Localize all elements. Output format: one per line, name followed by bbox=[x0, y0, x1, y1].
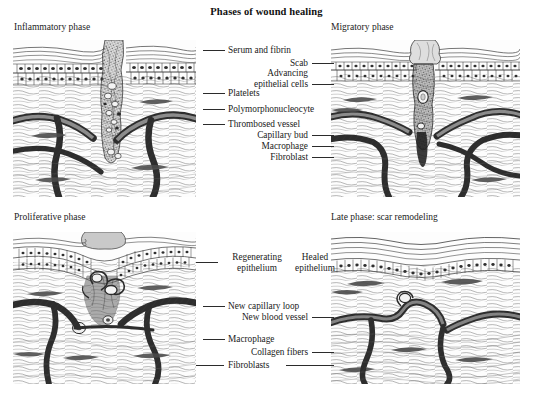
leader-macrophage-top bbox=[312, 146, 334, 147]
figure-title: Phases of wound healing bbox=[0, 6, 533, 17]
label-healed-line2: epithelium bbox=[295, 263, 335, 273]
panel-title-proliferative: Proliferative phase bbox=[14, 212, 86, 222]
panel-title-inflammatory: Inflammatory phase bbox=[14, 22, 90, 32]
label-capillary-bud: Capillary bud bbox=[228, 130, 308, 141]
label-macrophage-bottom: Macrophage bbox=[228, 334, 274, 345]
illustration-late-phase bbox=[331, 232, 520, 384]
migratory-artwork bbox=[331, 40, 520, 197]
label-platelets: Platelets bbox=[228, 88, 260, 99]
wound-healing-figure: Phases of wound healing Inflammatory pha… bbox=[0, 0, 533, 398]
label-new-capillary-loop: New capillary loop bbox=[228, 301, 299, 312]
label-advancing-line2: epithelial cells bbox=[254, 79, 308, 89]
leader-regenerating-epithelium bbox=[196, 262, 218, 263]
label-thrombosed-vessel: Thrombosed vessel bbox=[228, 119, 300, 130]
label-advancing-line1: Advancing bbox=[267, 68, 308, 78]
illustration-proliferative-phase bbox=[13, 232, 196, 384]
label-fibroblast: Fibroblast bbox=[228, 152, 308, 163]
leader-macrophage-bottom bbox=[203, 339, 225, 340]
leader-polymorphonucleocyte bbox=[203, 109, 225, 110]
leader-fibroblasts-right bbox=[286, 365, 334, 366]
label-serum-and-fibrin: Serum and fibrin bbox=[228, 45, 291, 56]
proliferative-artwork bbox=[13, 232, 196, 384]
leader-fibroblasts-left bbox=[196, 365, 224, 366]
label-healed-epithelium: Healed epithelium bbox=[282, 252, 348, 273]
leader-serum-and-fibrin bbox=[203, 50, 225, 51]
label-fibroblasts: Fibroblasts bbox=[228, 360, 269, 371]
label-scab: Scab bbox=[248, 58, 308, 69]
leader-collagen-fibers bbox=[312, 352, 334, 353]
label-regenerating-line2: epithelium bbox=[237, 263, 277, 273]
leader-new-blood-vessel bbox=[312, 317, 334, 318]
capillary-bud bbox=[418, 91, 428, 104]
illustration-migratory-phase bbox=[331, 40, 520, 197]
label-collagen-fibers: Collagen fibers bbox=[228, 347, 308, 358]
leader-scab bbox=[312, 63, 334, 64]
illustration-inflammatory-phase bbox=[13, 40, 196, 197]
label-polymorphonucleocyte: Polymorphonucleocyte bbox=[228, 104, 314, 115]
panel-title-migratory: Migratory phase bbox=[331, 22, 394, 32]
leader-platelets bbox=[203, 93, 225, 94]
leader-capillary-bud bbox=[312, 135, 334, 136]
label-new-blood-vessel: New blood vessel bbox=[218, 312, 308, 323]
label-healed-line1: Healed bbox=[302, 252, 328, 262]
panel-title-late: Late phase: scar remodeling bbox=[331, 212, 438, 222]
leader-fibroblast bbox=[312, 157, 334, 158]
label-regenerating-line1: Regenerating bbox=[232, 252, 282, 262]
macrophage-cell-2 bbox=[103, 316, 113, 324]
leader-advancing-epithelial-cells bbox=[312, 84, 334, 85]
label-macrophage-top: Macrophage bbox=[228, 141, 308, 152]
leader-new-capillary-loop bbox=[203, 306, 225, 307]
residual-scab bbox=[81, 232, 125, 249]
capillary-bud-2 bbox=[417, 123, 424, 129]
scab-crust bbox=[409, 40, 440, 64]
label-advancing-epithelial-cells: Advancing epithelial cells bbox=[238, 68, 308, 89]
leader-thrombosed-vessel bbox=[203, 124, 225, 125]
inflammatory-artwork bbox=[13, 40, 196, 197]
late-phase-artwork bbox=[331, 232, 520, 384]
